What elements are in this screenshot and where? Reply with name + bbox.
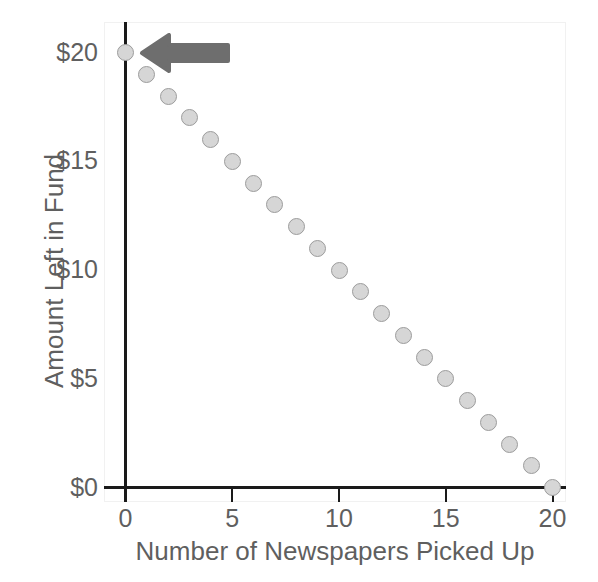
data-point [245,175,262,192]
data-point [117,44,134,61]
x-tick-label: 20 [518,506,588,531]
left-arrow-icon [139,33,231,73]
data-point [544,479,561,496]
data-point [288,218,305,235]
x-tick-label: 0 [91,506,161,531]
x-tick-label: 10 [304,506,374,531]
x-axis-title: Number of Newspapers Picked Up [104,538,566,564]
x-tick [231,487,233,502]
x-tick [445,487,447,502]
data-point [395,327,412,344]
x-tick-label: 15 [411,506,481,531]
data-point [160,88,177,105]
data-point [459,392,476,409]
data-point [352,283,369,300]
chart-page: 05101520 $0$5$10$15$20 Number of Newspap… [0,0,598,582]
x-tick [338,487,340,502]
data-point [480,414,497,431]
data-point [501,436,518,453]
data-point [224,153,241,170]
data-point [416,349,433,366]
x-axis-line [104,486,566,489]
y-tick [110,487,125,489]
x-tick-label: 5 [197,506,267,531]
y-axis-title: Amount Left in Fund [41,31,67,511]
x-tick [125,487,127,502]
y-axis-line [124,22,127,502]
data-point [331,262,348,279]
data-point [309,240,326,257]
data-point [523,457,540,474]
